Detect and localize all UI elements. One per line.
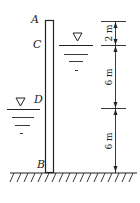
label-b: B — [36, 158, 45, 171]
ground — [10, 173, 137, 182]
label-d: D — [33, 93, 43, 106]
dimension-ac: 2 m — [104, 24, 114, 42]
dimension-cd: 6 m — [104, 68, 114, 86]
wall-diagram: A C D B — [0, 0, 140, 203]
wall — [46, 21, 54, 173]
label-c: C — [33, 38, 42, 51]
label-a: A — [30, 13, 39, 26]
water-surface-icon — [73, 33, 82, 41]
water-level-right — [59, 33, 93, 71]
water-surface-icon — [16, 98, 25, 106]
dimension-db: 6 m — [104, 132, 114, 150]
